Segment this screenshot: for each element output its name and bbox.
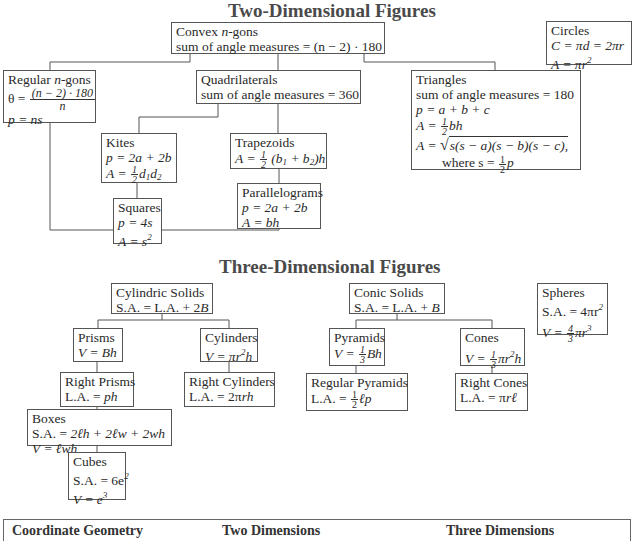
right-cylinders-box: Right Cylinders L.A. = 2πrh (184, 372, 275, 407)
formula-rhs: Bh (367, 346, 382, 361)
formula: S.A. = L.A. + 2 (116, 300, 200, 315)
formula-lhs: V = (465, 351, 486, 366)
formula-rhs: (b (271, 151, 282, 166)
formula-var: B (200, 300, 208, 315)
pyramids-box: Pyramids V = 13Bh (329, 328, 385, 366)
exponent: 3 (103, 490, 108, 500)
quadrilaterals-box: Quadrilaterals sum of angle measures = 3… (196, 70, 361, 104)
formula-var: ℓp (359, 391, 371, 406)
radical-icon: √ (440, 136, 449, 153)
conic-solids-box: Conic Solids S.A. = L.A. + B (349, 283, 445, 314)
circles-box: Circles C = πd = 2πr A = πr2 (546, 21, 632, 65)
box-name: Parallelograms (242, 185, 316, 200)
formula-lhs: V = (334, 346, 355, 361)
denominator: 2 (351, 400, 358, 409)
box-name: Right Cones (460, 375, 523, 390)
formula: sum of angle measures = 360 (201, 87, 356, 102)
denominator: n (30, 100, 95, 112)
connector-cylindric-children (98, 313, 162, 328)
formula: A = bh (242, 215, 316, 230)
exponent: 2 (598, 302, 603, 312)
connector-convex-triangles (364, 53, 495, 71)
denominator: 3 (567, 334, 574, 343)
formula-lhs: A = (416, 118, 437, 133)
prisms-box: Prisms V = Bh (73, 328, 123, 362)
subscript: 2 (157, 172, 162, 182)
column-header-coordinate-geometry: Coordinate Geometry (12, 523, 143, 539)
connector-conic-children (356, 313, 397, 328)
formula-var: ph (104, 389, 118, 404)
denominator: 3 (359, 355, 366, 364)
box-name: Prisms (78, 330, 118, 345)
formula-rhs: p (507, 155, 514, 170)
column-header-three-dimensions: Three Dimensions (446, 523, 554, 539)
formula: sum of angle measures = (n − 2) · 180 (176, 39, 380, 54)
cylinders-box: Cylinders V = πr2h (200, 328, 258, 362)
formula-rhs: d (150, 166, 157, 181)
box-name-suffix: -gons (228, 24, 258, 39)
right-prisms-box: Right Prisms L.A. = ph (60, 372, 134, 407)
box-name: Quadrilaterals (201, 72, 356, 87)
formula-rhs: bh (449, 118, 463, 133)
formula: L.A. = (65, 389, 104, 404)
denominator: 2 (260, 160, 267, 169)
fraction: 12 (351, 390, 358, 409)
connector-conic-cones (397, 320, 492, 328)
kites-box: Kites p = 2a + 2b A = 12d1d2 (101, 133, 177, 183)
boxes-box: Boxes S.A. = 2ℓh + 2ℓw + 2wh V = ℓwh (27, 409, 172, 446)
formula: L.A. = 2π (189, 389, 242, 404)
cones-box: Cones V = 13πr2h (460, 328, 525, 366)
cubes-box: Cubes S.A. = 6e2 V = e3 (68, 452, 126, 500)
denominator: 2 (131, 175, 138, 184)
formula-table-header: Coordinate Geometry Two Dimensions Three… (3, 519, 631, 541)
regular-pyramids-box: Regular Pyramids L.A. = 12ℓp (306, 373, 408, 411)
formula: p = 2a + 2b (106, 150, 172, 165)
box-name: Squares (118, 200, 157, 215)
formula: p = 2a + 2b (242, 200, 316, 215)
formula: V = Bh (78, 345, 118, 360)
formula-rhs: πr (498, 351, 510, 366)
formula-rhs: d (139, 166, 146, 181)
trapezoids-box: Trapezoids A = 12 (b1 + b2)h (230, 133, 327, 169)
box-name: Kites (106, 135, 172, 150)
box-name-var: n (54, 72, 61, 87)
box-name: Right Prisms (65, 374, 129, 389)
formula-rhs: + b (287, 151, 310, 166)
formula: p = a + b + c (416, 102, 576, 117)
formula-var: 2ℓh + 2ℓw + 2wh (70, 426, 165, 441)
formula-lhs: V = (542, 325, 563, 340)
right-cones-box: Right Cones L.A. = πrℓ (455, 373, 528, 411)
connector-convex-regular (50, 53, 190, 71)
fraction: 13 (359, 345, 366, 364)
spheres-box: Spheres S.A. = 4πr2 V = 43πr3 (537, 283, 608, 335)
column-header-two-dimensions: Two Dimensions (222, 523, 320, 539)
formula-lhs: θ = (8, 91, 25, 106)
box-name: Cubes (73, 454, 121, 469)
box-name: Conic Solids (354, 285, 440, 300)
box-name: Cylindric Solids (116, 285, 208, 300)
exponent: 3 (587, 323, 592, 333)
box-name: Trapezoids (235, 135, 322, 150)
formula-var: rℓ (506, 390, 517, 405)
box-name: Regular Pyramids (311, 375, 403, 390)
parallelograms-box: Parallelograms p = 2a + 2b A = bh (237, 183, 321, 229)
formula: S.A. = 4πr (542, 304, 598, 319)
formula-var: B (431, 300, 439, 315)
formula: p = 4s (118, 215, 157, 230)
box-name: Right Cylinders (189, 374, 270, 389)
formula-base: A = s (118, 234, 147, 249)
formula-lhs: A = (235, 151, 256, 166)
convex-ngons-box: Convex n-gons sum of angle measures = (n… (171, 22, 385, 54)
formula-rhs: )h (314, 151, 325, 166)
formula: S.A. = 6e (73, 473, 124, 488)
box-name: Regular (8, 72, 54, 87)
formula: sum of angle measures = 180 (416, 87, 576, 102)
formula-base: V = e (73, 492, 103, 507)
fraction: 43 (567, 324, 574, 343)
formula-var: rh (242, 389, 254, 404)
box-name: Cylinders (205, 330, 253, 345)
formula-rhs: πr (575, 325, 587, 340)
denominator: 2 (499, 165, 506, 174)
denominator: 3 (490, 360, 497, 369)
box-name: Triangles (416, 72, 576, 87)
